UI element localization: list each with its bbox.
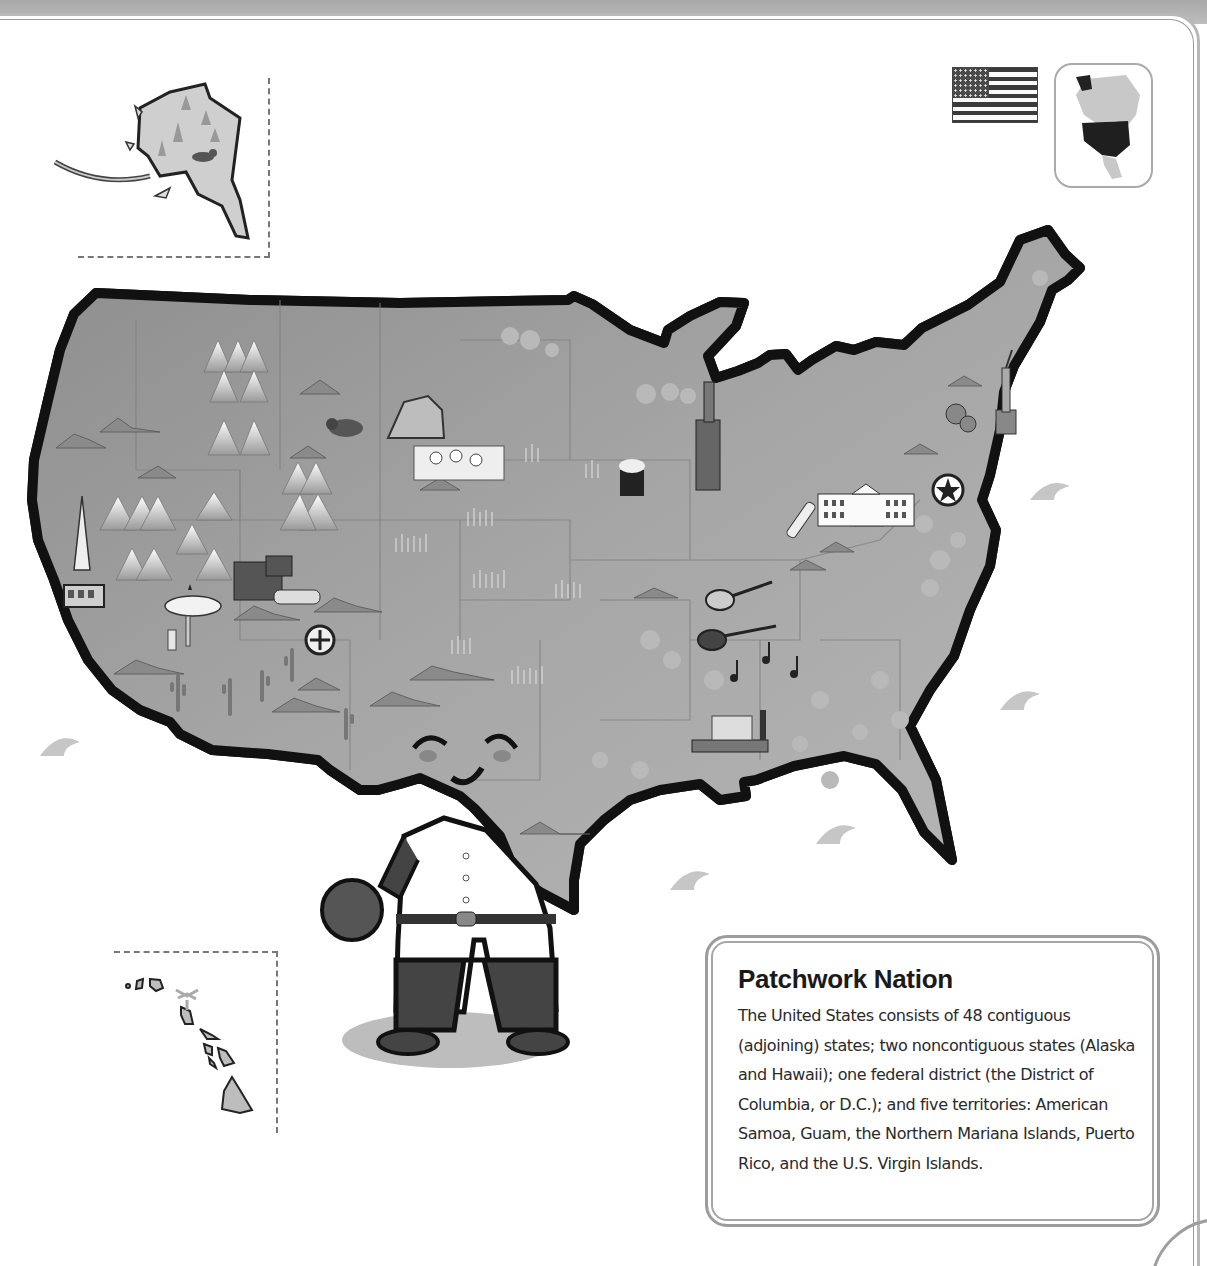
north-america-locator-map	[1054, 63, 1153, 188]
alaska-map	[55, 84, 248, 238]
hawaii-map	[126, 979, 252, 1113]
palm-tree-icon	[176, 990, 198, 1010]
popcorn-icon	[619, 459, 645, 496]
capital-star-icon	[933, 475, 963, 505]
info-box-title: Patchwork Nation	[738, 964, 1135, 995]
info-box-body: The United States consists of 48 contigu…	[738, 1001, 1135, 1178]
flag-canton	[953, 68, 989, 98]
cable-car-icon	[64, 585, 104, 607]
us-flag-icon	[952, 67, 1038, 123]
info-box: Patchwork Nation The United States consi…	[705, 935, 1160, 1227]
hospital-marker-icon	[306, 626, 334, 654]
contiguous-us-map	[32, 230, 1080, 910]
